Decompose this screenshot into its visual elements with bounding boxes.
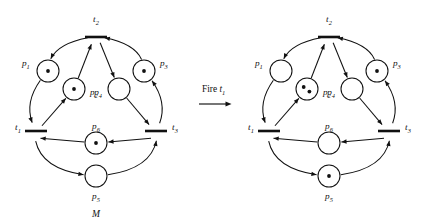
petri-net-canvas: p1p2p3p4p5p6t1t2t3Mp1p2p3p4p5p6t1t2t3Fir… (0, 0, 429, 222)
petri-net-after-firing: p1p2p3p4p5p6t1t2t3 (248, 14, 411, 203)
net-after-place-p4[interactable]: p4 (326, 78, 363, 100)
net-before-place-p6-label: p6 (91, 121, 101, 133)
net-after-place-p6-circle[interactable] (318, 132, 340, 154)
net-before-arc-p1-t1-arrowhead-icon (28, 117, 32, 123)
net-before-place-p5[interactable]: p5 (85, 165, 107, 203)
net-after-place-p4-label: p4 (326, 87, 336, 99)
net-before-place-p3[interactable]: p3 (133, 58, 168, 82)
petri-net-before-firing: p1p2p3p4p5p6t1t2t3M (15, 14, 178, 219)
net-after-arc-t1-p5 (269, 141, 317, 175)
net-after-place-p3-token (375, 69, 379, 73)
net-after-arc-t1-p2 (275, 98, 299, 125)
net-before-transition-t2-label: t2 (93, 14, 100, 26)
net-before-transition-t3[interactable]: t3 (145, 122, 178, 134)
net-before-arc-p3-t2 (105, 38, 142, 60)
net-after-place-p5[interactable]: p5 (318, 165, 340, 203)
net-after-place-p6[interactable]: p6 (318, 121, 340, 154)
net-before-place-p6-token (94, 141, 98, 145)
net-before-place-p5-label: p5 (91, 191, 100, 203)
net-after-place-p2-token (302, 85, 306, 89)
net-before-transition-t1-label: t1 (15, 122, 21, 134)
net-before-place-p4-circle[interactable] (108, 78, 130, 100)
fire-arrow-icon (226, 101, 232, 106)
net-before-place-p4[interactable]: p4 (93, 78, 130, 100)
net-before-arc-p2-t2 (78, 44, 91, 78)
fire-transition-annotation: Fire t1 (199, 84, 232, 107)
net-before-arc-p1-t1 (30, 80, 41, 122)
net-after-arc-p5-t3-arrowhead-icon (386, 141, 390, 147)
net-after-arc-t3-p3 (385, 81, 395, 123)
net-after-place-p2-token (308, 90, 312, 94)
net-before-transition-t3-label: t3 (172, 122, 178, 134)
net-before-arc-t1-p5-arrowhead-icon (78, 172, 83, 176)
net-after-transition-t1-label: t1 (248, 122, 254, 134)
net-after-arc-p6-t1 (273, 138, 317, 142)
net-before-arc-t1-p5 (36, 141, 84, 175)
net-before-arc-p4-t3 (127, 98, 149, 125)
net-after-arc-t2-p4-arrowhead-icon (343, 72, 347, 78)
net-after-place-p6-label: p6 (324, 121, 334, 133)
petri-net-after-firing-arcs (261, 37, 395, 176)
net-after-place-p3[interactable]: p3 (366, 58, 401, 82)
petri-net-figure: p1p2p3p4p5p6t1t2t3Mp1p2p3p4p5p6t1t2t3Fir… (0, 0, 429, 222)
net-after-arc-p3-t2 (338, 38, 375, 60)
net-before-place-p1-label: p1 (21, 58, 30, 70)
net-after-place-p4-circle[interactable] (341, 78, 363, 100)
net-before-transition-t2[interactable]: t2 (85, 14, 107, 37)
net-after-arc-p1-t1-arrowhead-icon (261, 117, 265, 123)
net-after-arc-t3-p6 (341, 138, 384, 142)
net-after-arc-t2-p4 (333, 43, 347, 78)
fire-label: Fire t1 (202, 84, 225, 96)
net-after-transition-t3-label: t3 (405, 122, 411, 134)
net-before-arc-t3-p6 (108, 138, 151, 142)
petri-net-before-firing-arcs (28, 37, 162, 176)
net-before-marking-label: M (91, 208, 101, 219)
net-before-arc-t1-p2 (42, 98, 66, 125)
net-before-place-p3-token (142, 69, 146, 73)
net-after-place-p1[interactable]: p1 (254, 58, 292, 82)
net-before-arc-t3-p3 (152, 81, 162, 123)
net-after-arc-t1-p5-arrowhead-icon (311, 172, 316, 176)
net-after-place-p1-label: p1 (254, 58, 263, 70)
net-after-transition-t3[interactable]: t3 (378, 122, 411, 134)
net-after-place-p3-label: p3 (392, 58, 401, 70)
net-after-arc-p2-t2 (311, 44, 324, 78)
net-after-arc-t2-p1 (284, 38, 321, 59)
net-before-place-p1[interactable]: p1 (21, 58, 59, 82)
net-after-arc-p2-t2-arrowhead-icon (320, 44, 324, 50)
net-before-arc-p5-t3 (108, 141, 156, 175)
net-before-arc-t2-p4 (100, 43, 114, 78)
net-before-arc-p6-t1 (40, 138, 84, 142)
net-after-arc-t3-p3-arrowhead-icon (385, 81, 390, 87)
net-before-arc-t3-p3-arrowhead-icon (152, 81, 157, 87)
net-before-arc-p2-t2-arrowhead-icon (87, 44, 91, 50)
net-before-transition-t1[interactable]: t1 (15, 122, 47, 134)
net-after-place-p5-token (327, 174, 331, 178)
net-before-place-p4-label: p4 (93, 87, 103, 99)
net-before-place-p1-token (46, 69, 50, 73)
net-after-place-p2-circle[interactable] (296, 78, 318, 100)
net-before-place-p6[interactable]: p6 (85, 121, 107, 154)
net-before-arc-p5-t3-arrowhead-icon (153, 141, 157, 147)
net-after-place-p1-circle[interactable] (270, 60, 292, 82)
net-after-place-p5-label: p5 (324, 191, 333, 203)
net-before-place-p2-token (72, 87, 76, 91)
net-after-transition-t2-label: t2 (326, 14, 333, 26)
net-after-transition-t1[interactable]: t1 (248, 122, 280, 134)
net-before-place-p3-label: p3 (159, 58, 168, 70)
net-after-arc-p1-t1 (263, 80, 274, 122)
net-after-arc-p4-t3 (360, 98, 382, 125)
net-before-arc-t2-p1 (51, 38, 88, 59)
net-before-arc-t2-p4-arrowhead-icon (110, 72, 114, 78)
net-after-transition-t2[interactable]: t2 (318, 14, 340, 37)
svg-root: p1p2p3p4p5p6t1t2t3Mp1p2p3p4p5p6t1t2t3Fir… (15, 14, 411, 219)
net-before-place-p5-circle[interactable] (85, 165, 107, 187)
net-after-arc-p5-t3 (341, 141, 390, 175)
